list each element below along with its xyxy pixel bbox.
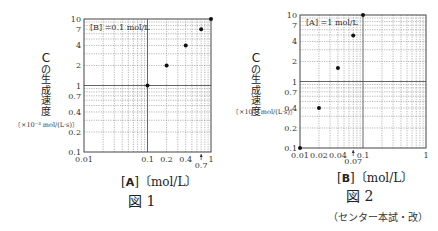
x-tick-label: 0.1 bbox=[357, 151, 370, 160]
data-point bbox=[336, 66, 340, 70]
x-tick-label: 0.7 bbox=[195, 161, 208, 170]
fig1-caption: 図 1 bbox=[128, 190, 155, 210]
x-tick-label: 0.02 bbox=[310, 151, 328, 160]
grid bbox=[300, 15, 426, 148]
source-note: （センター本試・改） bbox=[328, 209, 428, 224]
data-point bbox=[361, 13, 365, 17]
x-tick-label: 0.01 bbox=[75, 155, 93, 164]
y-tick-label: 10 bbox=[71, 15, 81, 24]
data-point bbox=[199, 27, 203, 31]
y-tick-label: 0.4 bbox=[284, 104, 297, 113]
data-point bbox=[317, 106, 321, 110]
y-tick-label: 2 bbox=[292, 57, 297, 66]
arrow-up-icon bbox=[200, 154, 203, 157]
fig2-xlabel: [B]〔mol/L〕 bbox=[337, 168, 413, 185]
x-tick-label: 0.1 bbox=[141, 155, 154, 164]
y-tick-label: 0.4 bbox=[68, 108, 81, 117]
y-tick-label: 7 bbox=[76, 25, 81, 34]
y-tick-label: 4 bbox=[76, 41, 81, 50]
x-tick-label: 0.4 bbox=[179, 155, 192, 164]
condition-annotation: [B] =0.1 mol/L bbox=[90, 23, 150, 32]
y-tick-label: 1 bbox=[292, 78, 297, 87]
fig1-xlabel: [A]〔mol/L〕 bbox=[121, 172, 197, 189]
x-tick-label: 1 bbox=[423, 151, 428, 160]
fig2-caption: 図 2 bbox=[346, 185, 373, 205]
y-tick-label: 7 bbox=[292, 21, 297, 30]
y-tick-label: 2 bbox=[76, 61, 81, 70]
fig2-xlabel-unit: 〔mol/L〕 bbox=[355, 171, 413, 185]
y-tick-label: 0.2 bbox=[68, 128, 81, 137]
y-tick-label: 0.2 bbox=[284, 124, 297, 133]
fig2-xlabel-symbol: B bbox=[342, 172, 350, 185]
data-point bbox=[165, 63, 169, 67]
data-point bbox=[184, 43, 188, 47]
x-tick-label: 1 bbox=[208, 155, 213, 164]
x-tick-label: 0.01 bbox=[291, 151, 309, 160]
data-point bbox=[298, 146, 302, 150]
fig2-chart: 0.10.20.40.71247100.010.020.040.070.11[A… bbox=[219, 0, 438, 170]
y-tick-label: 0.7 bbox=[284, 88, 297, 97]
data-point bbox=[146, 84, 150, 88]
data-point bbox=[209, 17, 213, 21]
y-tick-label: 0.7 bbox=[68, 92, 81, 101]
data-point bbox=[351, 34, 355, 38]
y-tick-label: 4 bbox=[292, 37, 297, 46]
fig1-chart: 0.10.20.40.71247100.010.10.20.40.71[B] =… bbox=[0, 0, 219, 175]
y-tick-label: 10 bbox=[287, 11, 297, 20]
fig1-xlabel-unit: 〔mol/L〕 bbox=[139, 175, 197, 189]
x-tick-label: 0.2 bbox=[160, 155, 173, 164]
y-tick-label: 1 bbox=[76, 82, 81, 91]
arrow-up-icon bbox=[352, 150, 355, 153]
condition-annotation: [A] =1 mol/L bbox=[306, 18, 359, 27]
fig1-xlabel-symbol: A bbox=[126, 176, 135, 189]
